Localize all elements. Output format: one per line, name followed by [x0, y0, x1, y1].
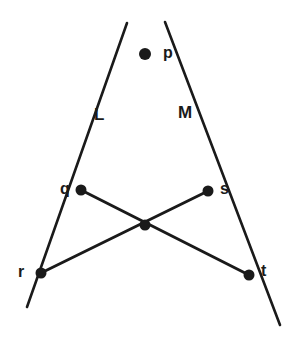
vertex-dot-center [140, 220, 151, 231]
point-label-q: q [60, 181, 70, 197]
line-M [165, 22, 280, 325]
point-label-t: t [261, 263, 266, 279]
line-label-M: M [178, 104, 192, 121]
line-L [27, 23, 127, 307]
vertex-dot-p [139, 48, 151, 60]
segment-s-r [41, 191, 208, 273]
nodes-group [36, 48, 255, 281]
segments-group [27, 22, 280, 325]
vertex-dot-s [203, 186, 214, 197]
point-label-p: p [163, 45, 173, 61]
vertex-dot-r [36, 268, 47, 279]
point-label-s: s [220, 181, 229, 197]
vertex-dot-q [76, 185, 87, 196]
segment-q-t [81, 190, 249, 275]
geometry-figure: pqsrt LM [0, 0, 292, 347]
vertex-dot-t [244, 270, 255, 281]
line-label-L: L [94, 106, 104, 123]
figure-canvas [0, 0, 292, 347]
point-label-r: r [18, 264, 24, 280]
